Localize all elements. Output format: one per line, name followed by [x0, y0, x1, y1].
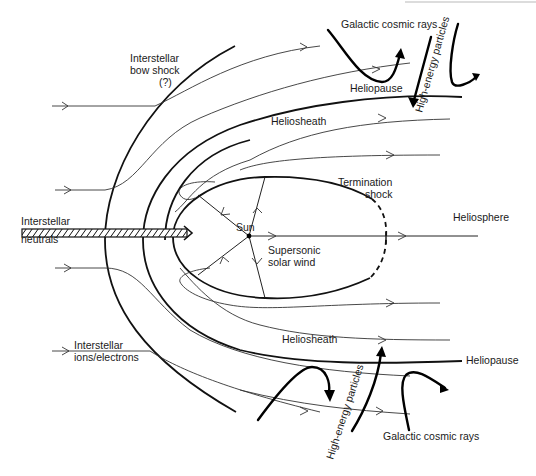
arrow-icon: [386, 299, 394, 307]
label-heliopause-top: Heliopause: [350, 82, 403, 94]
gcr-ray-top-2: [451, 24, 476, 86]
label-ions-line1: Interstellar: [74, 339, 124, 351]
label-ions-line2: ions/electrons: [74, 351, 139, 363]
streamline-wrap-top: [240, 155, 440, 170]
termination-shock-dashed: [370, 199, 386, 278]
label-solar-wind-line1: Supersonic: [268, 244, 321, 256]
arrowhead-icon: [324, 390, 335, 402]
label-bow-shock-line3: (?): [159, 76, 172, 88]
arrow-icon: [376, 407, 383, 415]
arrowhead-icon: [376, 346, 386, 357]
gcr-ray-bottom-2: [402, 372, 445, 430]
streamline-heliosheath-bottom: [180, 268, 450, 340]
arrowhead-icon: [395, 48, 405, 59]
label-neutrals-line2: neutrals: [21, 233, 58, 245]
label-bow-shock-line2: bow shock: [130, 64, 180, 76]
arrow-icon: [378, 336, 386, 344]
streamline-wrap-bottom: [230, 303, 440, 308]
label-high-energy-particles-bottom: High-energy particles: [323, 363, 365, 461]
heliopause-curve: [143, 96, 462, 363]
label-heliosphere: Heliosphere: [453, 211, 509, 223]
streamline-top-1: [52, 46, 320, 106]
arrow-icon: [300, 43, 307, 51]
streamline-loop-bottom: [180, 268, 230, 305]
arrowhead-icon: [440, 384, 449, 393]
label-termination-line1: Termination: [338, 176, 392, 188]
sun-dot: [247, 234, 252, 239]
arrow-icon: [378, 114, 386, 122]
label-sun: Sun: [236, 221, 255, 233]
label-heliosheath-bottom: Heliosheath: [282, 333, 338, 345]
label-bow-shock-line1: Interstellar: [130, 52, 180, 64]
solar-wind-rays: [198, 177, 478, 298]
label-termination-line2: shock: [365, 188, 393, 200]
streamline-heliosheath-top: [175, 119, 450, 212]
label-galactic-cosmic-rays-top: Galactic cosmic rays: [341, 18, 437, 30]
label-solar-wind-line2: solar wind: [268, 256, 315, 268]
heliosphere-diagram: Interstellar bow shock (?) Galactic cosm…: [0, 0, 536, 476]
label-heliopause-bottom: Heliopause: [466, 354, 519, 366]
label-neutrals-line1: Interstellar: [21, 215, 71, 227]
label-heliosheath-top: Heliosheath: [271, 115, 327, 127]
label-galactic-cosmic-rays-bottom: Galactic cosmic rays: [383, 430, 479, 442]
